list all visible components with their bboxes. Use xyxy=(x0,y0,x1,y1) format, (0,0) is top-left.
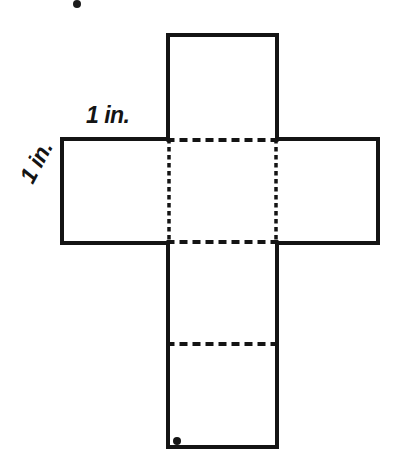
corner-ink-blot xyxy=(173,437,181,445)
cube-net-diagram xyxy=(0,0,404,467)
top-edge-length-label: 1 in. xyxy=(86,104,130,127)
figure-root: 1 in. 1 in. xyxy=(0,0,404,467)
scan-artifact-dot xyxy=(73,0,81,8)
